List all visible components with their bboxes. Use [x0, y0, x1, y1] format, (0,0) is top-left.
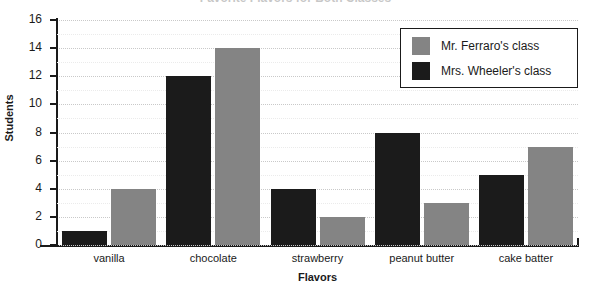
y-axis-tick-label: 2	[14, 209, 42, 223]
legend-swatch	[412, 37, 430, 55]
y-axis-tick	[50, 216, 58, 218]
x-axis-category-label: cake batter	[474, 252, 578, 264]
gridline	[57, 118, 578, 119]
bar	[111, 189, 156, 245]
x-axis-category-label: vanilla	[57, 252, 161, 264]
gridline	[57, 90, 578, 91]
y-axis-tick-label: 14	[14, 40, 42, 54]
gridline	[57, 147, 578, 148]
legend-item: Mr. Ferraro's class	[412, 37, 539, 55]
bar	[528, 147, 573, 245]
bar	[320, 217, 365, 245]
gridline	[57, 133, 578, 134]
bar	[62, 231, 107, 245]
gridline	[57, 20, 578, 21]
y-axis-tick-label: 4	[14, 181, 42, 195]
chart-legend: Mr. Ferraro's classMrs. Wheeler's class	[400, 28, 578, 88]
legend-label: Mr. Ferraro's class	[441, 39, 539, 53]
gridline	[57, 245, 578, 246]
y-axis-tick-label: 10	[14, 96, 42, 110]
y-axis-tick	[50, 103, 58, 105]
y-axis-tick	[50, 19, 58, 21]
bar	[271, 189, 316, 245]
bar	[215, 48, 260, 245]
y-axis-title: Students	[3, 83, 15, 153]
y-axis-tick	[50, 132, 58, 134]
bar	[424, 203, 469, 245]
y-axis-tick	[50, 47, 58, 49]
x-axis-category-label: peanut butter	[370, 252, 474, 264]
legend-item: Mrs. Wheeler's class	[412, 62, 551, 80]
y-axis-tick-label: 8	[14, 125, 42, 139]
y-axis-tick-label: 16	[14, 12, 42, 26]
bar	[479, 175, 524, 245]
y-axis-tick	[50, 75, 58, 77]
x-axis-category-label: strawberry	[265, 252, 369, 264]
y-axis-tick-label: 6	[14, 153, 42, 167]
legend-label: Mrs. Wheeler's class	[441, 64, 551, 78]
y-axis-tick-label: 12	[14, 68, 42, 82]
bar	[375, 133, 420, 246]
gridline	[57, 104, 578, 105]
x-axis-title: Flavors	[57, 271, 578, 283]
legend-swatch	[412, 62, 430, 80]
x-axis-category-label: chocolate	[161, 252, 265, 264]
chart-title: Favorite Flavors for Both Classes	[0, 0, 591, 5]
y-axis-tick	[50, 188, 58, 190]
y-axis-tick	[50, 244, 58, 246]
bar-chart: Favorite Flavors for Both Classes Studen…	[0, 0, 591, 290]
bar	[166, 76, 211, 245]
y-axis-tick	[50, 160, 58, 162]
y-axis-tick-label: 0	[14, 237, 42, 251]
gridline	[57, 161, 578, 162]
